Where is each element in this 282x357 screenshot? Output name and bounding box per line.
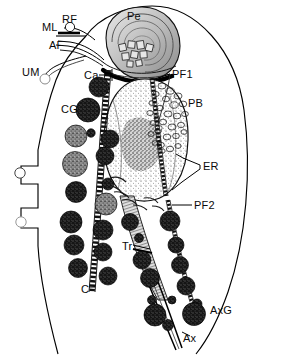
granule xyxy=(135,234,144,243)
label-af: AF xyxy=(49,40,63,51)
granule xyxy=(168,296,176,304)
granule xyxy=(101,130,119,148)
label-axg: AxG xyxy=(210,305,232,316)
membrane-vesicle-upper xyxy=(15,168,25,178)
label-tr: Tr xyxy=(122,241,132,252)
granule xyxy=(177,277,195,295)
label-cg: CG xyxy=(61,104,78,115)
granule xyxy=(172,257,189,274)
granule xyxy=(94,243,112,261)
figure-root: ML RF AF UM Pe Ca CG PF1 PB ER PF2 Tr C … xyxy=(0,0,282,357)
granule xyxy=(133,251,151,269)
granule xyxy=(63,152,88,177)
granule xyxy=(99,267,117,285)
granule xyxy=(93,220,113,240)
label-ml: ML xyxy=(42,22,58,33)
pelta-structure xyxy=(103,7,180,82)
granule xyxy=(163,320,174,331)
label-ca: Ca xyxy=(84,70,98,81)
granule xyxy=(60,211,82,233)
granule xyxy=(69,259,88,278)
granule xyxy=(76,98,100,122)
label-rf: RF xyxy=(62,14,77,25)
label-c: C xyxy=(81,284,89,295)
granule xyxy=(183,303,206,326)
granule xyxy=(141,269,160,288)
label-ax: Ax xyxy=(183,333,196,344)
granule xyxy=(96,147,114,165)
label-um: UM xyxy=(22,67,40,78)
granule xyxy=(66,182,87,203)
label-er: ER xyxy=(203,161,219,172)
label-pe: Pe xyxy=(127,11,141,22)
granule xyxy=(95,193,117,215)
granule xyxy=(65,125,87,147)
granule xyxy=(160,211,180,231)
granule xyxy=(122,214,139,231)
label-pf2: PF2 xyxy=(194,200,215,211)
um-basal-body xyxy=(40,74,50,84)
granule xyxy=(102,178,114,190)
membrane-vesicle-lower xyxy=(16,217,26,227)
label-pf1: PF1 xyxy=(172,69,193,80)
granule xyxy=(87,129,95,137)
cell-diagram xyxy=(0,0,282,357)
granule xyxy=(168,237,184,253)
granule xyxy=(148,296,157,305)
label-pb: PB xyxy=(188,98,203,109)
granule xyxy=(64,235,84,255)
